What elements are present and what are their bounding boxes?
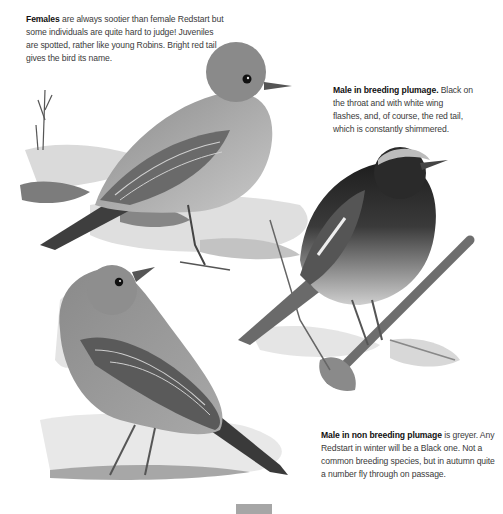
page-tab-marker xyxy=(236,504,272,514)
caption-male-nonbreeding: Male in non breeding plumage is greyer. … xyxy=(321,429,497,481)
caption-male-breeding-title: Male in breeding plumage. xyxy=(333,85,438,95)
caption-female: Females are always sootier than female R… xyxy=(26,13,226,65)
caption-male-breeding: Male in breeding plumage. Black on the t… xyxy=(333,84,473,136)
caption-male-nonbreeding-title: Male in non breeding plumage xyxy=(321,430,442,440)
caption-female-title: Females xyxy=(26,14,60,24)
twig xyxy=(36,90,52,150)
